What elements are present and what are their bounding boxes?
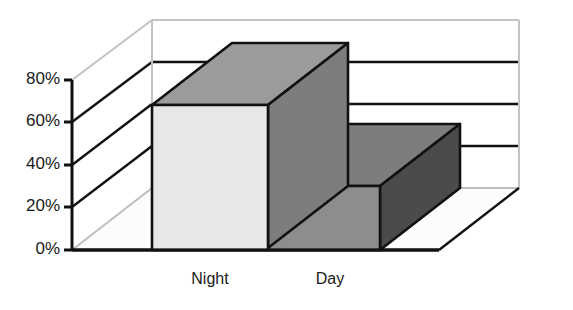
y-tick-label-40: 40% <box>0 154 60 174</box>
bar-chart-3d <box>0 0 573 310</box>
y-tick-label-20: 20% <box>0 196 60 216</box>
category-label-night: Night <box>160 270 260 288</box>
chart-container: 80% 60% 40% 20% 0% Night Day <box>0 0 573 310</box>
category-label-day: Day <box>280 270 380 288</box>
y-tick-label-0: 0% <box>0 239 60 259</box>
bar-night-front-face <box>152 105 268 250</box>
y-tick-label-60: 60% <box>0 111 60 131</box>
y-tick-label-80: 80% <box>0 69 60 89</box>
